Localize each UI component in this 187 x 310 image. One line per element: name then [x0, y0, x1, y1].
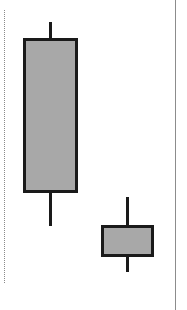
candlestick-chart: [0, 0, 187, 310]
candle-1-lower-wick: [49, 192, 52, 226]
candle-2-upper-wick: [126, 197, 129, 227]
candle-1-body: [23, 38, 78, 193]
candle-2-body: [101, 225, 154, 257]
candle-2-lower-wick: [126, 256, 129, 272]
left-axis-dotted-line: [4, 10, 5, 283]
right-border-line: [175, 0, 176, 310]
